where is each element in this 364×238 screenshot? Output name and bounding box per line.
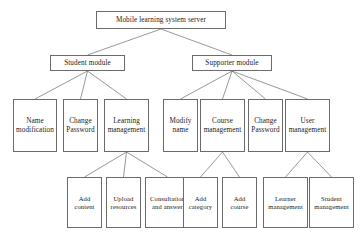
node-student[interactable]: Student module <box>50 55 125 71</box>
edge-learnmgmt-to-uploadres <box>124 152 127 177</box>
edge-supporter-to-modifyname <box>181 71 233 99</box>
node-addcontent[interactable]: Add content <box>67 177 102 228</box>
node-learnmgmt[interactable]: Learning management <box>104 99 149 152</box>
node-label-studentmgmt: Student management <box>312 195 351 211</box>
node-label-addcategory: Add category <box>186 195 215 211</box>
edge-supporter-to-usermgmt <box>232 71 308 99</box>
node-learnermgmt[interactable]: Learner management <box>263 177 308 228</box>
edge-usermgmt-to-learnermgmt <box>286 152 308 177</box>
node-changepw2[interactable]: Change Password <box>248 99 283 152</box>
node-modifyname[interactable]: Modify name <box>163 99 198 152</box>
edge-coursemgmt-to-addcategory <box>201 152 223 177</box>
edge-student-to-learnmgmt <box>88 71 127 99</box>
edge-coursemgmt-to-addcourse <box>223 152 240 177</box>
edge-learnmgmt-to-addcontent <box>85 152 127 177</box>
node-changepw1[interactable]: Change Password <box>63 99 98 152</box>
node-label-modifyname: Modify name <box>166 117 195 134</box>
node-label-root: Mobile learning system server <box>99 16 223 24</box>
node-label-changepw1: Change Password <box>66 117 95 134</box>
node-root[interactable]: Mobile learning system server <box>96 11 226 29</box>
edge-student-to-namemod <box>35 71 88 99</box>
edge-supporter-to-coursemgmt <box>223 71 233 99</box>
node-label-student: Student module <box>53 59 122 67</box>
node-label-changepw2: Change Password <box>251 117 280 134</box>
node-namemod[interactable]: Name modification <box>13 99 57 152</box>
node-label-learnermgmt: Learner management <box>266 195 305 211</box>
node-label-addcourse: Add course <box>225 195 254 211</box>
edge-student-to-changepw1 <box>81 71 88 99</box>
node-label-usermgmt: User management <box>288 117 327 134</box>
node-label-coursemgmt: Course management <box>203 117 242 134</box>
node-uploadres[interactable]: Upload resources <box>106 177 141 228</box>
node-supporter[interactable]: Supporter module <box>192 55 272 71</box>
node-label-namemod: Name modification <box>16 117 54 134</box>
edge-usermgmt-to-studentmgmt <box>308 152 332 177</box>
node-label-addcontent: Add content <box>70 195 99 211</box>
node-studentmgmt[interactable]: Student management <box>309 177 354 228</box>
node-addcourse[interactable]: Add course <box>222 177 257 228</box>
node-label-consult: Consultation and answer <box>148 195 187 211</box>
node-label-learnmgmt: Learning management <box>107 117 146 134</box>
edge-root-to-supporter <box>161 29 232 55</box>
edge-root-to-student <box>88 29 162 55</box>
node-usermgmt[interactable]: User management <box>285 99 330 152</box>
edge-supporter-to-changepw2 <box>232 71 266 99</box>
node-label-supporter: Supporter module <box>195 59 269 67</box>
node-addcategory[interactable]: Add category <box>183 177 218 228</box>
tree-diagram: Mobile learning system serverStudent mod… <box>0 0 364 238</box>
edge-learnmgmt-to-consult <box>127 152 168 177</box>
node-coursemgmt[interactable]: Course management <box>200 99 245 152</box>
node-label-uploadres: Upload resources <box>109 195 138 211</box>
